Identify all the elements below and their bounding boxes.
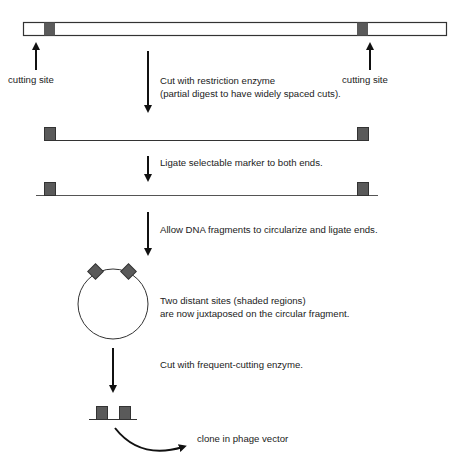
step3-text: Allow DNA fragments to circularize and l… — [160, 223, 378, 236]
clone-arrow — [115, 428, 183, 451]
shaded-region-left — [44, 23, 55, 36]
step1-line1: Cut with restriction enzyme — [160, 74, 341, 87]
genomic-dna-bar — [24, 23, 447, 36]
shaded-region-right — [357, 23, 368, 36]
step4-text: Two distant sites (shaded regions) are n… — [160, 294, 349, 320]
step2-text: Ligate selectable marker to both ends. — [160, 156, 323, 169]
circular-fragment — [78, 264, 148, 339]
step5-text: Cut with frequent-cutting enzyme. — [160, 358, 303, 371]
step4-line2: are now juxtaposed on the circular fragm… — [160, 307, 349, 320]
step1-line2: (partial digest to have widely spaced cu… — [160, 87, 341, 100]
fragment-after-cut — [45, 128, 369, 141]
step1-text: Cut with restriction enzyme (partial dig… — [160, 74, 341, 100]
cutting-site-label-right: cutting site — [342, 73, 388, 86]
step4-line1: Two distant sites (shaded regions) — [160, 294, 349, 307]
step6-text: clone in phage vector — [197, 432, 288, 445]
fragment-with-markers — [36, 183, 378, 196]
small-fragment — [89, 407, 137, 420]
shaded-region-right — [121, 264, 137, 280]
cutting-site-label-left: cutting site — [8, 73, 54, 86]
